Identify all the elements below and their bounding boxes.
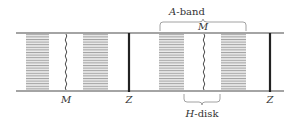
sarcomere-diagram: A-band M H-disk M Z Z	[0, 0, 294, 124]
a-band-label: A-band	[168, 6, 205, 17]
thick-filament-band-3	[159, 34, 184, 90]
z-label-right: Z	[266, 94, 275, 105]
z-label-left: Z	[125, 94, 134, 105]
m-label-top: M	[197, 21, 209, 32]
m-line-wavy-left	[65, 34, 67, 90]
thick-filament-band-1	[26, 34, 49, 90]
m-line-wavy-right	[203, 34, 205, 90]
thick-filament-band-4	[221, 34, 246, 90]
thick-filament-band-2	[83, 34, 108, 90]
h-disk-label: H-disk	[185, 108, 220, 119]
m-label-bottom: M	[60, 94, 72, 105]
h-disk-brace	[184, 94, 220, 105]
